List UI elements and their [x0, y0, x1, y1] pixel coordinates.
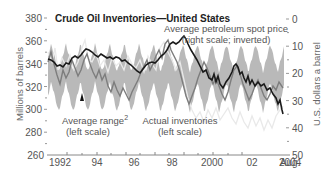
left-axis-labels: 380 360 340 320 300 280 260	[25, 13, 44, 161]
inventories-annotation-line2: (left scale)	[158, 126, 202, 137]
ytick-left-340: 340	[25, 59, 42, 70]
ytick-right-30: 30	[292, 96, 304, 107]
xtick-02: 02	[246, 157, 258, 168]
ytick-right-40: 40	[292, 123, 304, 134]
inventories-annotation-line1: Actual inventories	[143, 115, 218, 126]
xtick-96: 96	[128, 157, 140, 168]
range-annotation-text: Average range	[62, 115, 124, 126]
crude-oil-inventories-chart: 380 360 340 320 300 280 260 0 10 20 30 4…	[0, 0, 329, 169]
ytick-left-320: 320	[25, 82, 42, 93]
left-axis-ticks	[44, 18, 47, 144]
price-annotation-line1: Average petroleum spot price	[164, 23, 288, 34]
right-axis-title: U.S. dollars a barrel	[311, 42, 322, 126]
xtick-1992: 1992	[49, 157, 72, 168]
range-annotation-line2: (left scale)	[66, 126, 110, 137]
xtick-2004: 2004	[279, 157, 301, 168]
xtick-94: 94	[91, 157, 103, 168]
left-axis-title: Millions of barrels	[14, 47, 25, 121]
ytick-left-280: 280	[25, 127, 42, 138]
ytick-right-0: 0	[292, 14, 298, 25]
right-axis-ticks	[286, 19, 289, 141]
ytick-left-380: 380	[25, 13, 42, 24]
x-axis-labels: 1992 94 96 98 2000 02 Aug.	[49, 157, 300, 168]
ytick-right-20: 20	[292, 68, 304, 79]
range-annotation-footnote: 2	[124, 114, 128, 121]
price-annotation-line2: (right scale; inverted)	[182, 34, 271, 45]
ytick-right-10: 10	[292, 41, 304, 52]
xtick-98: 98	[166, 157, 178, 168]
ytick-left-260: 260	[27, 150, 44, 161]
right-axis-labels: 0 10 20 30 40 50	[292, 14, 304, 161]
range-annotation-line1: Average range2	[62, 114, 128, 126]
xtick-2000: 2000	[201, 157, 224, 168]
arrow-marker-icon	[80, 93, 84, 101]
ytick-left-300: 300	[25, 104, 42, 115]
ytick-left-360: 360	[25, 36, 42, 47]
